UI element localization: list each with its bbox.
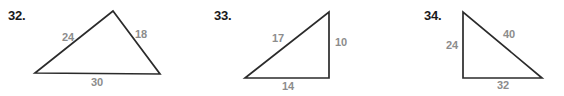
side-label-33-vertical: 10 [335, 36, 347, 48]
side-label-32-base: 30 [91, 76, 103, 88]
side-label-34-hypotenuse: 40 [503, 28, 515, 40]
problem-number-34: 34. [424, 8, 441, 23]
triangle-shape-34 [463, 12, 542, 78]
side-label-33-base: 14 [282, 80, 294, 92]
side-label-32-left: 24 [62, 31, 74, 43]
triangle-shape-33 [245, 12, 329, 78]
side-label-34-base: 32 [497, 79, 509, 91]
problem-number-33: 33. [214, 8, 231, 23]
side-label-32-right: 18 [135, 28, 147, 40]
triangle-shape-32 [35, 11, 160, 74]
worksheet-canvas: 32. 24 18 30 33. 17 10 14 34. 24 40 32 [0, 0, 564, 96]
side-label-33-hypotenuse: 17 [272, 32, 284, 44]
problem-number-32: 32. [8, 8, 25, 23]
side-label-34-vertical: 24 [446, 39, 458, 51]
